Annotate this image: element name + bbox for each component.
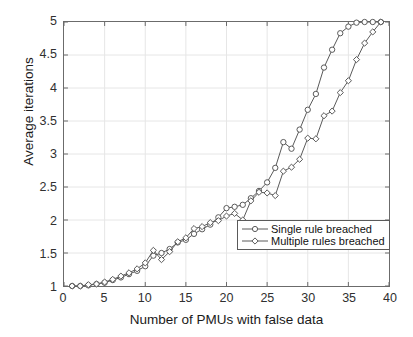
legend-label-multiple-rules-breached: Multiple rules breached: [271, 236, 385, 247]
x-tick-label: 25: [260, 292, 274, 305]
y-tick-label: 4: [50, 81, 57, 94]
x-tick-label: 0: [60, 292, 67, 305]
legend-marker-diamond-icon: [241, 235, 269, 247]
x-tick-label: 20: [220, 292, 234, 305]
legend-label-single-rule-breached: Single rule breached: [271, 224, 372, 235]
y-axis-title: Average iterations: [21, 2, 36, 222]
x-tick-label: 30: [301, 292, 315, 305]
y-tick-label: 3.5: [40, 115, 57, 128]
legend-item-single-rule-breached[interactable]: Single rule breached: [241, 223, 385, 235]
x-axis-tick-labels: 0510152025303540: [63, 292, 390, 310]
x-tick-label: 35: [342, 292, 356, 305]
y-tick-label: 3: [50, 148, 57, 161]
y-tick-label: 5: [50, 15, 57, 28]
y-tick-label: 1.5: [40, 248, 57, 261]
y-tick-label: 2.5: [40, 181, 57, 194]
x-tick-label: 5: [100, 292, 107, 305]
y-tick-label: 2: [50, 214, 57, 227]
x-tick-label: 40: [383, 292, 397, 305]
x-tick-label: 15: [179, 292, 193, 305]
legend-item-multiple-rules-breached[interactable]: Multiple rules breached: [241, 235, 385, 247]
x-axis-title: Number of PMUs with false data: [63, 312, 390, 327]
chart-legend: Single rule breached Multiple rules brea…: [237, 220, 390, 250]
y-tick-label: 4.5: [40, 48, 57, 61]
x-tick-label: 10: [138, 292, 152, 305]
legend-marker-circle-icon: [241, 223, 269, 235]
y-tick-label: 1: [50, 281, 57, 294]
chart-figure: 11.522.533.544.55 Average iterations 051…: [0, 0, 413, 337]
